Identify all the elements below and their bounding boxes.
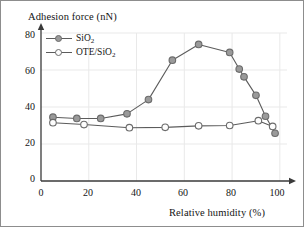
legend-item-ote-sio2: OTE/SiO2 bbox=[46, 47, 115, 59]
data-point-ote-sio2 bbox=[255, 117, 262, 124]
y-axis-arrow bbox=[38, 23, 44, 30]
data-point-sio2 bbox=[195, 41, 202, 48]
data-point-sio2 bbox=[272, 130, 279, 137]
y-tick-80: 80 bbox=[13, 29, 35, 40]
x-tick-0: 0 bbox=[30, 187, 52, 198]
x-axis-arrow bbox=[289, 178, 296, 184]
data-point-sio2 bbox=[253, 92, 260, 99]
legend-label-ote-sio2: OTE/SiO2 bbox=[76, 47, 115, 59]
data-point-ote-sio2 bbox=[81, 121, 88, 128]
y-tick-60: 60 bbox=[13, 65, 35, 76]
data-point-sio2 bbox=[236, 66, 243, 73]
chart-figure: Adhesion force (nN) 80 60 40 20 0 0 20 4… bbox=[0, 0, 304, 227]
x-axis-title: Relative humidity (%) bbox=[169, 207, 265, 218]
y-tick-40: 40 bbox=[13, 101, 35, 112]
legend-label-sio2: SiO2 bbox=[76, 33, 94, 45]
data-point-sio2 bbox=[124, 111, 131, 118]
data-point-ote-sio2 bbox=[162, 124, 169, 131]
data-point-ote-sio2 bbox=[195, 123, 202, 130]
y-tick-0: 0 bbox=[13, 173, 35, 184]
data-point-sio2 bbox=[97, 115, 104, 122]
filled-circle-marker-icon bbox=[46, 33, 72, 45]
data-point-ote-sio2 bbox=[269, 123, 276, 130]
data-point-ote-sio2 bbox=[226, 122, 233, 129]
data-point-sio2 bbox=[262, 113, 269, 120]
y-tick-20: 20 bbox=[13, 137, 35, 148]
x-tick-40: 40 bbox=[125, 187, 147, 198]
legend-item-sio2: SiO2 bbox=[46, 33, 115, 45]
x-tick-20: 20 bbox=[77, 187, 99, 198]
data-point-sio2 bbox=[74, 115, 81, 122]
hollow-circle-marker-icon bbox=[46, 47, 72, 59]
data-point-sio2 bbox=[145, 96, 152, 103]
x-tick-80: 80 bbox=[220, 187, 242, 198]
data-point-ote-sio2 bbox=[50, 119, 57, 126]
data-point-sio2 bbox=[169, 57, 176, 64]
x-tick-100: 100 bbox=[266, 187, 288, 198]
chart-legend: SiO2 OTE/SiO2 bbox=[46, 33, 115, 59]
x-tick-60: 60 bbox=[172, 187, 194, 198]
data-point-ote-sio2 bbox=[126, 124, 133, 131]
data-point-sio2 bbox=[241, 74, 248, 81]
data-point-sio2 bbox=[226, 49, 233, 56]
